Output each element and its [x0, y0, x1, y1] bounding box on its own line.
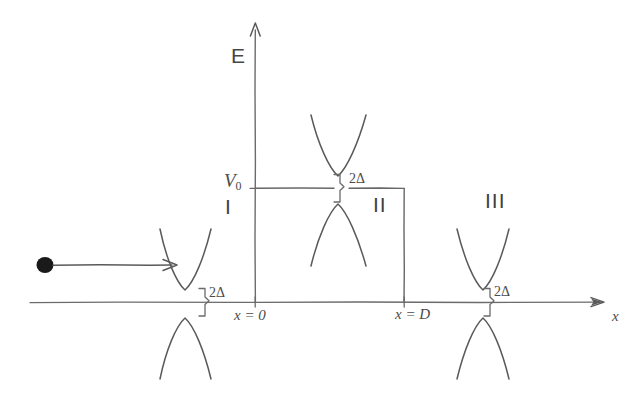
region-3-bands	[457, 229, 509, 379]
incident-electron	[37, 257, 178, 273]
barrier-height-label: V0	[224, 171, 242, 190]
x-d-label: x = D	[395, 307, 430, 322]
region-label-2: II	[373, 194, 387, 215]
band-gap-label-3: 2Δ	[494, 285, 510, 299]
x-zero-label: x = 0	[234, 308, 266, 323]
band-gap-label-2: 2Δ	[349, 172, 365, 186]
x-axis	[30, 298, 604, 307]
region-1-bands	[160, 229, 211, 379]
region-label-3: III	[485, 190, 506, 211]
physics-band-diagram: .ln { fill:none; stroke:#5a5a5a; stroke-…	[0, 0, 636, 396]
barrier-height-symbol: V	[224, 170, 236, 191]
e-axis	[250, 23, 260, 302]
diagram-canvas: .ln { fill:none; stroke:#5a5a5a; stroke-…	[0, 0, 636, 396]
region-label-1: I	[225, 196, 232, 217]
electron-dot	[37, 257, 54, 273]
band-gap-label-1: 2Δ	[209, 286, 225, 300]
barrier-height-subscript: 0	[236, 179, 242, 193]
position-axis-label: x	[612, 309, 619, 324]
region-2-bands	[311, 115, 366, 266]
energy-axis-label: E	[231, 45, 245, 66]
